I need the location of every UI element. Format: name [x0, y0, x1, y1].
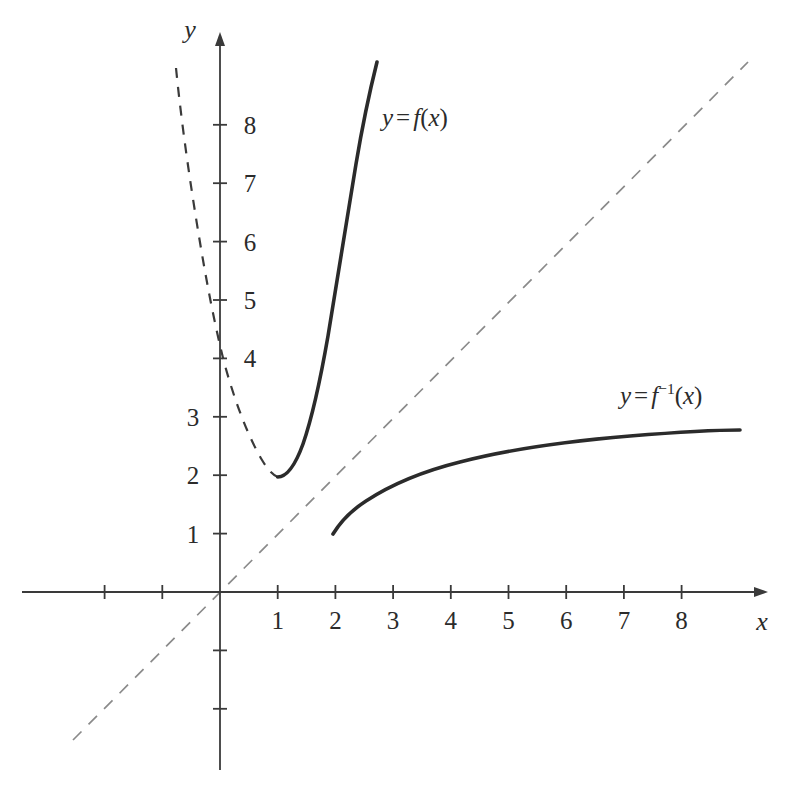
curve-label-finv-exponent: −1: [658, 380, 675, 397]
y-tick-label-2: 2: [187, 463, 200, 488]
x-axis: [22, 585, 768, 599]
x-tick-label-7: 7: [618, 608, 631, 633]
curve-label-finv-arg: x: [683, 382, 694, 409]
curve-label-f-open-paren: (: [420, 104, 428, 131]
figure-canvas: 1 2 3 4 5 6 7 8 1 2 3 4 5 6 7 8 x y y=f(…: [0, 0, 795, 798]
x-tick-label-3: 3: [387, 608, 400, 633]
curve-label-f: y=f(x): [382, 105, 448, 130]
curve-label-f-arg: x: [429, 104, 440, 131]
x-axis-arrowhead: [754, 587, 768, 597]
x-tick-label-6: 6: [560, 608, 573, 633]
x-tick-label-1: 1: [271, 608, 284, 633]
y-tick-label-6: 6: [244, 229, 257, 254]
y-tick-label-7: 7: [244, 171, 257, 196]
y-tick-label-8: 8: [244, 112, 257, 137]
y-tick-label-3: 3: [187, 404, 200, 429]
y-axis-arrowhead: [215, 32, 225, 46]
x-tick-label-2: 2: [329, 608, 342, 633]
x-tick-label-5: 5: [502, 608, 515, 633]
curve-label-f-equals: =: [393, 104, 413, 131]
curve-label-finv-open-paren: (: [675, 382, 683, 409]
x-tick-label-4: 4: [445, 608, 458, 633]
x-tick-label-8: 8: [675, 608, 688, 633]
y-tick-label-1: 1: [187, 521, 200, 546]
y-axis-label: y: [184, 17, 196, 43]
curve-label-f-lhs: y: [382, 104, 393, 131]
curve-label-finv-equals: =: [631, 382, 651, 409]
curve-label-finv-close-paren: ): [694, 382, 702, 409]
curve-label-f-close-paren: ): [440, 104, 448, 131]
curve-label-finv-lhs: y: [620, 382, 631, 409]
x-axis-label: x: [756, 609, 768, 635]
curve-label-f-inverse: y=f−1(x): [620, 383, 702, 408]
y-axis: [213, 32, 227, 770]
y-tick-label-4: 4: [244, 346, 257, 371]
y-tick-label-5: 5: [244, 288, 257, 313]
curve-f-inverse: [333, 430, 740, 534]
curve-f-solid: [278, 62, 377, 477]
